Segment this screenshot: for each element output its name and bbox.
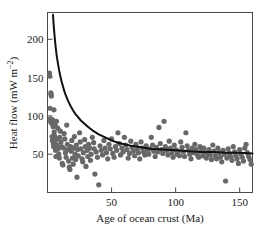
data-point <box>49 93 54 98</box>
data-point <box>92 172 97 177</box>
data-point <box>201 145 206 150</box>
data-point <box>237 147 242 152</box>
data-point <box>249 162 254 167</box>
data-point <box>149 135 154 140</box>
data-point <box>104 150 109 155</box>
data-point <box>136 150 141 155</box>
data-point <box>87 145 92 150</box>
data-point <box>72 134 77 139</box>
y-tick-label: 150 <box>27 72 44 84</box>
data-point <box>62 136 67 141</box>
data-point <box>67 167 72 172</box>
data-point <box>209 157 214 162</box>
plot-frame <box>48 13 253 193</box>
data-point <box>64 123 69 128</box>
data-point <box>97 143 102 148</box>
x-tick-label: 100 <box>167 196 184 208</box>
data-point <box>167 139 172 144</box>
data-point <box>210 142 215 147</box>
data-point <box>112 155 117 160</box>
data-point <box>122 135 127 140</box>
data-point <box>74 175 79 180</box>
data-point <box>94 149 99 154</box>
data-point <box>108 146 113 151</box>
data-point <box>172 142 177 147</box>
y-axis-title-main: Heat flow (mW m <box>7 69 20 150</box>
data-point <box>179 145 184 150</box>
data-point <box>177 153 182 158</box>
data-point <box>54 119 59 124</box>
data-point <box>103 145 108 150</box>
data-point <box>241 159 246 164</box>
data-point <box>51 107 56 112</box>
data-point <box>236 161 241 166</box>
data-point <box>146 152 151 157</box>
y-tick-label: 100 <box>27 110 44 122</box>
data-point <box>57 135 62 140</box>
data-point <box>80 159 85 164</box>
data-point <box>128 139 133 144</box>
data-point <box>138 139 143 144</box>
data-point <box>106 142 111 147</box>
data-point <box>105 156 110 161</box>
data-point <box>229 158 234 163</box>
data-point <box>47 73 52 78</box>
y-axis-title-superscript: −2 <box>6 61 15 70</box>
data-point <box>158 141 163 146</box>
x-axis-ticks <box>112 188 240 193</box>
data-point <box>60 162 65 167</box>
data-point <box>247 157 252 162</box>
data-point <box>88 152 93 157</box>
data-point <box>83 164 88 169</box>
data-point <box>77 130 82 135</box>
data-point <box>178 139 183 144</box>
data-point <box>156 125 161 130</box>
data-point <box>95 155 100 160</box>
scatter-series-measured-heat-flow <box>47 70 254 187</box>
data-point <box>96 182 101 187</box>
y-axis-tick-labels: 50100150200 <box>27 33 44 160</box>
heat-flow-figure: 50100150 50100150200 Age of ocean crust … <box>0 0 273 232</box>
data-point <box>219 159 224 164</box>
data-point <box>90 135 95 140</box>
y-axis-title-close: ) <box>7 57 20 61</box>
data-point <box>223 178 228 183</box>
x-tick-label: 150 <box>231 196 248 208</box>
data-point <box>182 154 187 159</box>
data-point <box>188 156 193 161</box>
data-point <box>231 144 236 149</box>
x-axis-title: Age of ocean crust (Ma) <box>96 212 204 225</box>
data-point <box>215 145 220 150</box>
y-tick-label: 200 <box>27 33 44 45</box>
data-point <box>208 152 213 157</box>
svg-text:Heat flow (mW m−2): Heat flow (mW m−2) <box>6 57 20 150</box>
data-point <box>183 130 188 135</box>
data-point <box>78 139 83 144</box>
x-axis-tick-labels: 50100150 <box>106 196 248 208</box>
data-point <box>91 140 96 145</box>
line-series-cooling-curve <box>53 15 252 154</box>
data-point <box>115 130 120 135</box>
y-axis-title: Heat flow (mW m−2) <box>6 57 20 150</box>
data-point <box>226 146 231 151</box>
data-point <box>88 158 93 163</box>
data-point <box>71 162 76 167</box>
data-point <box>62 131 67 136</box>
y-tick-label: 50 <box>33 148 45 160</box>
data-point <box>57 155 62 160</box>
data-point <box>137 156 142 161</box>
data-point <box>161 119 166 124</box>
data-point <box>82 137 87 142</box>
data-point <box>235 156 240 161</box>
data-point <box>61 145 66 150</box>
data-point <box>114 148 119 153</box>
data-point <box>185 143 190 148</box>
data-point <box>192 142 197 147</box>
x-tick-label: 50 <box>106 196 118 208</box>
data-point <box>153 154 158 159</box>
data-point <box>243 142 248 147</box>
chart-canvas: 50100150 50100150200 Age of ocean crust … <box>0 0 273 232</box>
data-point <box>126 155 131 160</box>
